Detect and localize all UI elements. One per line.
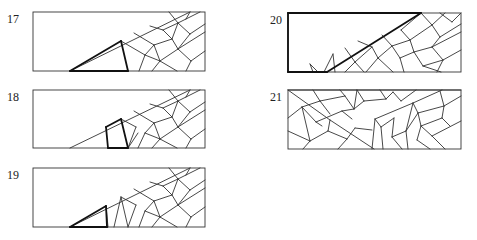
tile-edge [357, 90, 364, 101]
tile-edge [406, 131, 408, 149]
tile-edge [121, 197, 128, 227]
tile-edge [190, 102, 205, 112]
tile-edge [345, 96, 354, 109]
tile-edge [154, 39, 172, 45]
tile-edge [316, 122, 322, 126]
panel-label-20: 20 [270, 14, 282, 26]
tile-edge [381, 118, 394, 127]
tile-edge [381, 127, 383, 149]
tile-edge [139, 55, 145, 71]
tile-edge [178, 112, 190, 127]
tile-edge [160, 127, 178, 139]
tile-edge [152, 217, 160, 227]
tile-edge [172, 39, 178, 49]
tile-edge [70, 90, 190, 148]
tile-edge [178, 101, 190, 112]
tile-edge [432, 121, 461, 136]
panel-frame [33, 168, 205, 227]
tile-edge [400, 58, 404, 72]
tile-edge [328, 120, 330, 131]
tile-edge [406, 103, 413, 131]
tile-edge [366, 58, 378, 72]
tile-edge [413, 103, 418, 113]
tile-edge [355, 128, 372, 130]
tile-edge [392, 131, 406, 137]
tile-edge [178, 188, 205, 205]
tile-edge [392, 118, 394, 137]
tile-edge [421, 126, 432, 136]
tile-edge [178, 23, 190, 34]
tile-edge [172, 195, 178, 205]
tile-edge [375, 103, 413, 119]
tile-edge [160, 49, 178, 61]
tile-edge [178, 179, 190, 190]
tile-edge [178, 97, 186, 101]
tile-edge [414, 52, 423, 66]
tile-edge [440, 13, 452, 22]
tile-edge [392, 46, 400, 58]
tile-edge [152, 139, 160, 148]
tile-edge [442, 106, 444, 118]
highlighted-piece-edge [70, 206, 106, 227]
tile-edge [400, 52, 414, 58]
tile-edge [178, 32, 205, 49]
tile-edge [364, 99, 386, 101]
tile-edge [178, 34, 190, 49]
tile-edge [333, 54, 335, 72]
tile-edge [150, 104, 163, 108]
tile-edge [160, 205, 178, 217]
tile-edge [320, 101, 330, 114]
tile-edge [114, 197, 121, 227]
tile-edge [320, 96, 345, 101]
highlighted-piece-edge [70, 41, 121, 71]
tile-edge [302, 107, 310, 141]
tile-edge [392, 137, 402, 149]
tile-edge [328, 131, 347, 139]
tile-edge [342, 111, 352, 119]
tile-edge [347, 128, 355, 139]
tile-edge [440, 91, 444, 106]
tile-edge [186, 217, 191, 227]
tile-edge [172, 117, 178, 127]
tile-edge [432, 136, 445, 149]
tile-edge [378, 58, 393, 72]
tile-edge [178, 190, 190, 205]
tile-edge [444, 96, 461, 106]
tile-edge [313, 90, 320, 101]
tile-edge [134, 111, 154, 123]
tile-edge [432, 47, 443, 60]
panel-label-18: 18 [7, 91, 19, 103]
tile-edge [190, 180, 205, 190]
tile-edge [342, 109, 354, 111]
tile-edge [338, 139, 347, 149]
tile-edge [443, 50, 461, 60]
tile-edge [421, 13, 432, 25]
panel-21 [288, 90, 461, 149]
tile-edge [128, 205, 136, 227]
tile-edge [355, 62, 364, 72]
tile-edge [414, 47, 432, 52]
tile-edge [191, 51, 205, 61]
tile-edge [340, 90, 345, 96]
tile-edge [178, 19, 186, 23]
tile-edge [178, 49, 191, 61]
tile-edge [178, 205, 191, 217]
tile-edge [372, 47, 378, 58]
tile-edge [418, 106, 444, 113]
tile-edge [380, 90, 386, 99]
tile-edge [190, 24, 205, 34]
tile-edge [345, 62, 355, 72]
tile-edge [178, 127, 191, 139]
tile-edge [70, 168, 190, 227]
tile-edge [145, 201, 154, 211]
tile-edge [417, 126, 421, 140]
tile-edge [375, 119, 381, 127]
tile-edge [432, 37, 440, 47]
tile-edge [154, 195, 172, 201]
tile-edge [178, 110, 205, 127]
tile-edge [163, 30, 172, 39]
tile-edge [354, 90, 357, 109]
tile-edge [163, 186, 172, 195]
panel-frame [33, 90, 205, 148]
tile-edge [288, 107, 302, 118]
